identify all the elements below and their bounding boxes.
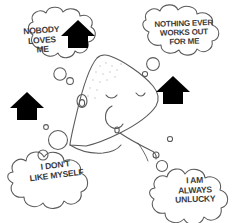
arrow-top-left-icon: [61, 20, 95, 48]
thought-bubble-dont-like-myself: [8, 131, 88, 209]
thought-bubble-outlines: [8, 5, 228, 223]
right-eye-closed: [136, 93, 145, 96]
left-eye-closed: [106, 95, 117, 98]
body-underline: [70, 145, 121, 153]
arrow-top-right-icon: [156, 76, 190, 104]
sad-elephant-character: [70, 55, 158, 161]
thought-bubble-always-unlucky: [150, 152, 228, 223]
thought-bubble-nothing-ever-works-out: [142, 5, 218, 77]
trunk-crease: [138, 143, 148, 161]
upward-arrows: [10, 20, 190, 120]
arrow-left-icon: [10, 92, 44, 120]
elephant-trunk: [120, 133, 156, 159]
cartoon-drawing: [0, 0, 239, 223]
illustration-canvas: NOBODY LOVES ME NOTHING EVER WORKS OUT F…: [0, 0, 239, 223]
ear-spiral: [77, 95, 87, 108]
head-stipple: [87, 62, 122, 99]
cheek-curve: [105, 106, 123, 128]
